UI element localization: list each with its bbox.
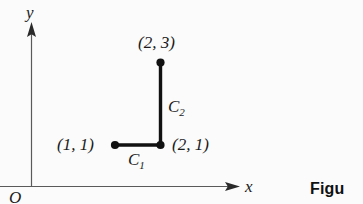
point-dot-1-1 <box>111 141 119 149</box>
point-dot-2-1 <box>156 141 164 149</box>
point-label-2-3: (2, 3) <box>138 34 175 51</box>
x-axis-label: x <box>245 178 253 195</box>
curve-label-c2-base: C <box>168 97 179 116</box>
origin-label: O <box>9 189 21 204</box>
curve-label-c1-subscript: 1 <box>139 159 145 171</box>
y-axis-label: y <box>26 4 34 21</box>
point-label-2-1: (2, 1) <box>172 136 209 153</box>
curve-label-c2: C2 <box>168 98 185 118</box>
figure-caption: Figu <box>310 181 345 197</box>
curve-label-c2-subscript: 2 <box>179 106 185 118</box>
curve-label-c1-base: C <box>128 150 139 169</box>
curve-label-c1: C1 <box>128 151 145 171</box>
figure-screenshot: y x O (2, 3) (1, 1) (2, 1) C1 C2 Figu <box>0 0 363 204</box>
point-label-1-1: (1, 1) <box>57 136 94 153</box>
point-dot-2-3 <box>156 58 164 66</box>
